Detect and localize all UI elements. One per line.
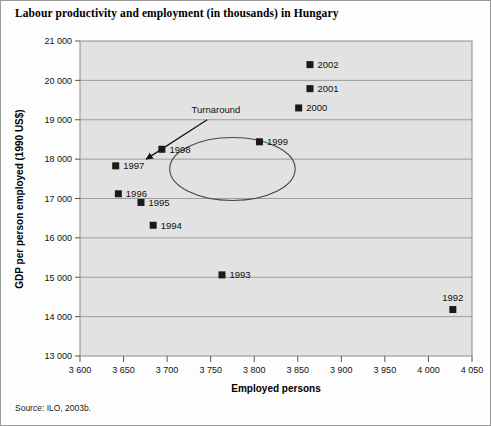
data-point-label: 2002 xyxy=(317,59,338,70)
data-point-label: 2000 xyxy=(306,102,327,113)
y-tick-label: 18 000 xyxy=(44,154,72,164)
scatter-chart-svg: 13 00014 00015 00016 00017 00018 00019 0… xyxy=(1,1,491,426)
x-tick-label: 3 600 xyxy=(69,365,92,375)
data-point-marker xyxy=(158,146,165,153)
data-point-label: 1992 xyxy=(442,292,463,303)
data-point-label: 1995 xyxy=(148,197,169,208)
data-point-marker xyxy=(256,138,263,145)
data-point-marker xyxy=(295,104,302,111)
source-note: Source: ILO, 2003b. xyxy=(15,403,91,413)
x-axis-tick-labels: 3 6003 6503 7003 7503 8003 8503 9003 950… xyxy=(69,365,484,375)
data-point-marker xyxy=(112,162,119,169)
x-axis-ticks xyxy=(80,356,472,362)
turnaround-label: Turnaround xyxy=(192,104,241,115)
y-tick-label: 19 000 xyxy=(44,115,72,125)
data-point-label: 1998 xyxy=(169,144,190,155)
data-point-label: 1996 xyxy=(126,188,147,199)
data-point-marker xyxy=(218,271,225,278)
x-tick-label: 3 850 xyxy=(287,365,310,375)
data-point-label: 1999 xyxy=(267,136,288,147)
y-axis-title: GDP per person employed (1990 US$) xyxy=(14,109,25,288)
x-tick-label: 3 750 xyxy=(199,365,222,375)
data-point-marker xyxy=(115,190,122,197)
data-point-marker xyxy=(137,199,144,206)
y-tick-label: 16 000 xyxy=(44,233,72,243)
data-point-label: 2001 xyxy=(317,83,338,94)
data-point-marker xyxy=(150,222,157,229)
y-tick-label: 13 000 xyxy=(44,351,72,361)
chart-figure: Labour productivity and employment (in t… xyxy=(0,0,491,426)
data-point-label: 1993 xyxy=(229,269,250,280)
y-tick-label: 21 000 xyxy=(44,36,72,46)
data-point-marker xyxy=(306,85,313,92)
data-point-marker xyxy=(449,306,456,313)
y-tick-label: 15 000 xyxy=(44,273,72,283)
y-tick-label: 17 000 xyxy=(44,194,72,204)
y-axis-tick-labels: 13 00014 00015 00016 00017 00018 00019 0… xyxy=(44,36,72,361)
data-point-label: 1994 xyxy=(161,220,182,231)
y-axis-ticks xyxy=(75,41,80,356)
x-tick-label: 4 050 xyxy=(461,365,484,375)
y-tick-label: 20 000 xyxy=(44,76,72,86)
x-axis-title: Employed persons xyxy=(231,383,321,394)
data-point-marker xyxy=(306,61,313,68)
x-tick-label: 3 650 xyxy=(112,365,135,375)
x-tick-label: 3 700 xyxy=(156,365,179,375)
x-tick-label: 3 950 xyxy=(374,365,397,375)
x-tick-label: 3 900 xyxy=(330,365,353,375)
chart-canvas: 13 00014 00015 00016 00017 00018 00019 0… xyxy=(1,1,491,426)
x-tick-label: 3 800 xyxy=(243,365,266,375)
y-tick-label: 14 000 xyxy=(44,312,72,322)
x-tick-label: 4 000 xyxy=(417,365,440,375)
data-point-label: 1997 xyxy=(123,160,144,171)
